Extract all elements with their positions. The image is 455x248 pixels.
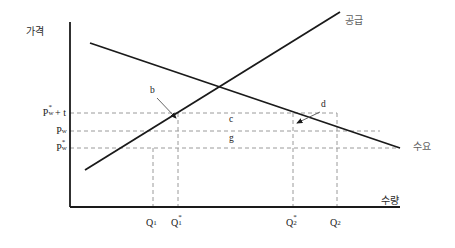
quantity-tick-subscript: 1 (153, 220, 157, 227)
quantity-tick-q2-star: Q*2 (286, 216, 297, 228)
diagram-canvas (0, 0, 455, 248)
price-tick-subsup: *w (62, 141, 66, 151)
quantity-tick-base: Q (330, 217, 337, 228)
supply-curve-label: 공급 (345, 16, 363, 26)
callout-label-b: b (150, 86, 155, 96)
quantity-tick-q1-star: Q*1 (171, 216, 182, 228)
quantity-tick-q1: Q1 (146, 216, 157, 228)
axes (70, 22, 400, 207)
quantity-tick-subsup: 1 (153, 216, 157, 226)
quantity-tick-subsup: *1 (178, 216, 182, 226)
quantity-tick-q2: Q2 (330, 216, 341, 228)
quantity-tick-base: Q (171, 217, 178, 228)
quantity-tick-subscript: 2 (337, 220, 341, 227)
callout-b-leader (157, 98, 176, 118)
price-tick-p-world-domestic: Pw (12, 124, 66, 136)
demand-curve (90, 43, 400, 148)
area-label-c: c (229, 115, 233, 125)
price-tick-subsup: w (62, 124, 66, 134)
dashed-quantity-lines (153, 113, 337, 207)
price-tick-subscript: w (62, 128, 67, 135)
quantity-tick-subsup: *2 (293, 216, 297, 226)
area-label-g: g (229, 134, 234, 144)
quantity-tick-subscript: 2 (293, 220, 297, 227)
callout-label-d: d (321, 100, 326, 110)
price-tick-subscript: w (48, 110, 53, 117)
supply-curve (85, 12, 340, 170)
price-tick-subscript: w (62, 145, 67, 152)
curves (85, 12, 400, 170)
price-tick-subsup: *w (48, 106, 52, 116)
quantity-tick-subsup: 2 (337, 216, 341, 226)
demand-curve-label: 수요 (413, 142, 431, 152)
quantity-tick-base: Q (286, 217, 293, 228)
price-tick-p-world: P*w (12, 141, 66, 153)
quantity-tick-base: Q (146, 217, 153, 228)
price-tick-p-world-plus-tariff: P*w + t (12, 106, 66, 118)
tariff-supply-demand-diagram: 가격 수량 공급 수요 P*w + t Pw P*w Q1 Q*1 Q*2 Q2… (0, 0, 455, 248)
x-axis-title: 수량 (381, 196, 399, 206)
price-tick-suffix: + t (53, 107, 66, 118)
y-axis-title: 가격 (26, 27, 44, 37)
quantity-tick-subscript: 1 (178, 220, 182, 227)
